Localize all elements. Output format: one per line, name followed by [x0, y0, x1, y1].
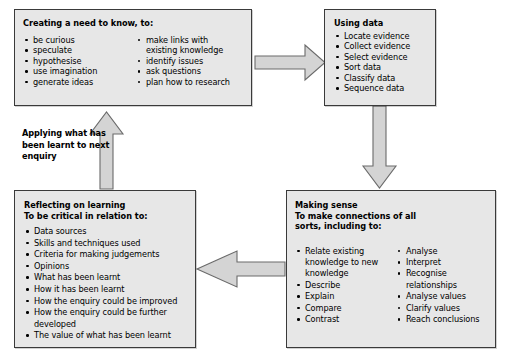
list-item: be curious — [23, 35, 136, 46]
arrow-creating-to-using — [255, 45, 325, 80]
box-making-sense-list-left: Relate existing knowledge to new knowled… — [295, 246, 396, 326]
box-making-sense-columns: Relate existing knowledge to new knowled… — [295, 246, 489, 326]
box-making-sense-list-right: Analyse Interpret Recognise relationship… — [396, 246, 489, 326]
box-using-data-list: Locate evidence Collect evidence Select … — [334, 31, 429, 95]
list-item: Select evidence — [334, 52, 429, 63]
list-item: Skills and techniques used — [24, 238, 188, 250]
list-item: What has been learnt — [24, 272, 188, 284]
list-item: Analyse — [396, 246, 489, 257]
box-reflecting-title-line2: To be critical in relation to: — [24, 211, 188, 222]
list-item: speculate — [23, 45, 136, 56]
list-item: Clarify values — [396, 303, 489, 314]
list-item: Analyse values — [396, 291, 489, 302]
box-making-sense: Making sense To make connections of all … — [286, 190, 496, 348]
list-item-continuation: knowledge to new — [295, 257, 396, 268]
box-reflecting-title-line1: Reflecting on learning — [24, 200, 188, 211]
box-using-data: Using data Locate evidence Collect evide… — [324, 9, 436, 106]
arrow-using-to-making-sense — [363, 106, 396, 188]
list-item: Contrast — [295, 314, 396, 325]
list-item: hypothesise — [23, 56, 136, 67]
list-item: Compare — [295, 303, 396, 314]
box-reflecting-list: Data sources Skills and techniques used … — [24, 226, 188, 342]
box-using-data-title: Using data — [334, 18, 429, 29]
list-item: Describe — [295, 280, 396, 291]
list-item: Sort data — [334, 62, 429, 73]
list-item: Classify data — [334, 73, 429, 84]
list-item: Explain — [295, 291, 396, 302]
list-item: Criteria for making judgements — [24, 249, 188, 261]
list-item-continuation: knowledge — [295, 268, 396, 279]
list-item: ask questions — [136, 66, 243, 77]
box-creating-title: Creating a need to know, to: — [23, 18, 243, 29]
list-item: identify issues — [136, 56, 243, 67]
list-item: generate ideas — [23, 77, 136, 88]
box-creating-list-right: make links with existing knowledge ident… — [136, 35, 243, 88]
list-item: How the enquiry could be further — [24, 307, 188, 319]
list-item: Recognise — [396, 268, 489, 279]
list-item: The value of what has been learnt — [24, 330, 188, 342]
list-item: plan how to research — [136, 77, 243, 88]
box-creating-a-need-to-know: Creating a need to know, to: be curious … — [14, 9, 252, 106]
box-making-sense-title-line3: sorts, including to: — [295, 221, 489, 232]
box-creating-columns: be curious speculate hypothesise use ima… — [23, 35, 243, 88]
list-item: How it has been learnt — [24, 284, 188, 296]
box-making-sense-title-line1: Making sense — [295, 200, 489, 211]
list-item: make links with — [136, 35, 243, 46]
list-item: use imagination — [23, 66, 136, 77]
list-item-continuation: relationships — [396, 280, 489, 291]
diagram-canvas: Creating a need to know, to: be curious … — [0, 0, 514, 363]
list-item: Interpret — [396, 257, 489, 268]
list-item-continuation: developed — [24, 319, 188, 331]
box-making-sense-title-line2: To make connections of all — [295, 211, 489, 222]
list-item: Opinions — [24, 261, 188, 273]
arrow-making-sense-to-reflecting — [197, 251, 285, 287]
list-item: Collect evidence — [334, 41, 429, 52]
list-item: Sequence data — [334, 83, 429, 94]
list-item-continuation: existing knowledge — [136, 45, 243, 56]
applying-arrow-label: Applying what has been learnt to next en… — [22, 128, 118, 163]
list-item: Reach conclusions — [396, 314, 489, 325]
box-creating-list-left: be curious speculate hypothesise use ima… — [23, 35, 136, 88]
list-item: How the enquiry could be improved — [24, 296, 188, 308]
list-item: Relate existing — [295, 246, 396, 257]
box-reflecting-on-learning: Reflecting on learning To be critical in… — [14, 190, 196, 348]
list-item: Locate evidence — [334, 31, 429, 42]
list-item: Data sources — [24, 226, 188, 238]
